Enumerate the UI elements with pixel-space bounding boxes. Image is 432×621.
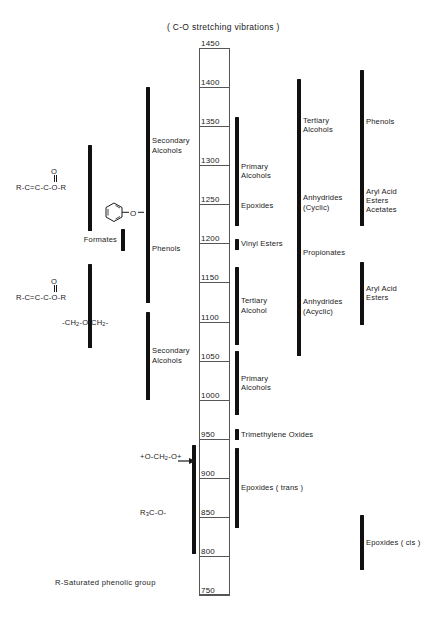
range-bar xyxy=(88,264,92,348)
scale-tick xyxy=(199,595,230,596)
scale-tick-label-1200: 1200 xyxy=(201,234,220,243)
range-bar-label: Epoxides ( cis ) xyxy=(366,538,420,548)
range-bar xyxy=(146,312,150,400)
scale-tick xyxy=(199,556,230,557)
structure-text: +O-CH2-O+ xyxy=(140,452,182,461)
range-bar-label: Anhydrides (Acyclic) xyxy=(303,297,343,316)
range-bar xyxy=(297,159,301,247)
scale-tick-label-950: 950 xyxy=(201,430,215,439)
range-bar-label: Epoxides xyxy=(241,201,273,211)
structure-acrylate-ester-lower: OR-C=C-C-O-R xyxy=(16,293,66,302)
range-bar xyxy=(360,515,364,570)
scale-tick xyxy=(199,165,230,166)
scale-tick-label-800: 800 xyxy=(201,547,215,556)
structure-text: R-C=C-C-O-R xyxy=(16,183,66,192)
range-bar-label: Vinyl Esters xyxy=(241,239,283,249)
range-bar-label: Primary Alcohols xyxy=(241,374,271,393)
range-bar xyxy=(297,257,301,355)
scale-tick-label-1400: 1400 xyxy=(201,78,220,87)
range-bar xyxy=(88,145,92,231)
range-bar xyxy=(235,267,239,345)
range-bar xyxy=(235,429,239,440)
footnote-text: R-Saturated phenolic group xyxy=(55,578,156,587)
range-bar xyxy=(235,187,239,225)
range-bar-label: Secondary Alcohols xyxy=(152,346,190,365)
scale-tick-label-1000: 1000 xyxy=(201,391,220,400)
scale-tick-label-850: 850 xyxy=(201,508,215,517)
structure-tert-alkoxy: R3C-O- xyxy=(140,508,166,517)
scale-tick-label-900: 900 xyxy=(201,469,215,478)
scale-tick xyxy=(199,322,230,323)
range-bar-label: Aryl Acid Esters xyxy=(366,284,397,303)
scale-tick-label-750: 750 xyxy=(201,586,215,595)
structure-methylene-ether: -CH2-O-CH2- xyxy=(62,318,108,327)
range-bar xyxy=(360,70,364,175)
range-bar xyxy=(360,200,364,220)
range-bar xyxy=(297,79,301,171)
scale-tick xyxy=(199,126,230,127)
range-bar-label: Secondary Alcohols xyxy=(152,136,190,155)
range-bar-label: Tertiary Alcohols xyxy=(303,116,333,135)
range-bar xyxy=(360,262,364,325)
scale-tick-label-1050: 1050 xyxy=(201,352,220,361)
range-bar-label: Epoxides ( trans ) xyxy=(241,483,303,493)
range-bar-label: Aryl Acid Esters xyxy=(366,187,397,206)
structure-text: -CH2-O-CH2- xyxy=(62,318,108,327)
svg-text:O: O xyxy=(130,209,136,218)
chart-title: ( C-O stretching vibrations ) xyxy=(167,22,280,32)
scale-tick-label-1100: 1100 xyxy=(201,313,219,322)
range-bar-label: Phenols xyxy=(152,244,181,254)
range-bar-label: Acetates xyxy=(366,205,397,215)
scale-tick-label-1450: 1450 xyxy=(201,39,220,48)
structure-acrylate-ester-upper: OR-C=C-C-O-R xyxy=(16,183,66,192)
scale-tick-label-1250: 1250 xyxy=(201,195,220,204)
range-bar-label: Propionates xyxy=(303,248,345,258)
correlation-chart: ( C-O stretching vibrations )14501400135… xyxy=(0,0,432,621)
scale-tick xyxy=(199,400,230,401)
scale-tick xyxy=(199,517,230,518)
structure-text: R-C=C-C-O-R xyxy=(16,293,66,302)
range-bar xyxy=(235,351,239,415)
scale-tick xyxy=(199,361,230,362)
range-bar-label: Phenols xyxy=(366,117,395,127)
range-bar xyxy=(235,448,239,528)
scale-tick xyxy=(199,478,230,479)
scale-tick-label-1350: 1350 xyxy=(201,117,220,126)
benzene-ring-icon: O xyxy=(103,200,155,226)
structure-text: R3C-O- xyxy=(140,508,166,517)
range-bar-label: Trimethylene Oxides xyxy=(241,430,313,440)
scale-tick xyxy=(199,87,230,88)
range-bar-label: Formates xyxy=(84,235,117,245)
range-bar xyxy=(146,87,150,204)
scale-tick xyxy=(199,204,230,205)
structure-phenyl-ether: O xyxy=(103,200,155,230)
scale-tick-label-1300: 1300 xyxy=(201,156,220,165)
structure-formal-group: +O-CH2-O+ xyxy=(140,452,182,461)
range-bar xyxy=(235,239,239,250)
scale-tick-label-1150: 1150 xyxy=(201,273,219,282)
scale-tick xyxy=(199,243,230,244)
range-bar-label: Primary Alcohols xyxy=(241,162,271,181)
scale-tick xyxy=(199,282,230,283)
range-bar-label: Tertiary Alcohol xyxy=(241,296,267,315)
scale-tick xyxy=(199,439,230,440)
range-bar-label: Anhydrides (Cyclic) xyxy=(303,193,343,212)
range-bar xyxy=(121,229,125,251)
arrow-icon xyxy=(178,452,196,470)
